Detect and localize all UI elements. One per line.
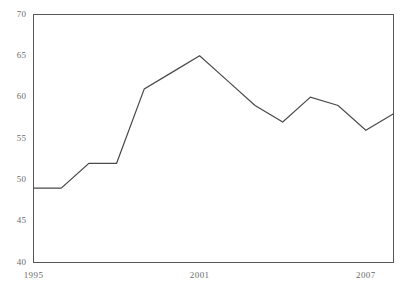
- y-axis-tick-label: 65: [5, 50, 27, 60]
- y-axis-tick-label: 40: [5, 257, 27, 267]
- y-axis-tick-label: 60: [5, 91, 27, 101]
- x-axis-tick-label: 2007: [346, 270, 386, 280]
- y-axis-tick-label: 55: [5, 133, 27, 143]
- y-axis-tick-label: 45: [5, 215, 27, 225]
- x-axis-tick-label: 1995: [14, 270, 54, 280]
- y-axis-tick-label: 70: [5, 9, 27, 19]
- line-chart: 70 65 60 55 50 45 40 1995 2001 2007: [0, 0, 410, 287]
- data-series-group: [34, 56, 394, 188]
- y-axis-tick-label: 50: [5, 174, 27, 184]
- x-axis-tick-label: 2001: [180, 270, 220, 280]
- chart-plot-svg: [0, 0, 410, 287]
- plot-axes: [34, 15, 394, 263]
